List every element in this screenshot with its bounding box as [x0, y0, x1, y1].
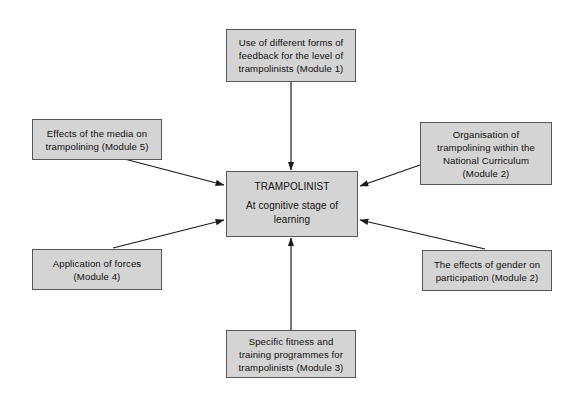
node-media-module-5[interactable]: Effects of the media on trampolining (Mo…	[32, 119, 162, 160]
node-forces-line-1: Application of forces	[53, 257, 142, 270]
center-subtitle-line-1: At cognitive stage of	[246, 199, 338, 213]
node-feedback-line-2: feedback for the level of	[239, 49, 343, 62]
node-fitness-line-3: trampolinists (Module 3)	[239, 361, 344, 374]
trampolinist-center[interactable]: TRAMPOLINIST At cognitive stage of learn…	[226, 171, 358, 237]
node-fitness-line-2: training programmes for	[239, 348, 343, 361]
arrow-organisation-to-center	[360, 165, 420, 186]
node-organisation-line-1: Organisation of	[453, 128, 520, 141]
node-organisation-module-2[interactable]: Organisation of trampolining within the …	[420, 122, 552, 185]
node-media-line-1: Effects of the media on	[47, 127, 147, 140]
node-feedback-line-1: Use of different forms of	[239, 36, 344, 49]
node-fitness-module-3[interactable]: Specific fitness and training programmes…	[226, 330, 356, 378]
node-gender-line-1: The effects of gender on	[434, 258, 540, 271]
node-forces-module-4[interactable]: Application of forces (Module 4)	[32, 249, 162, 290]
node-forces-line-2: (Module 4)	[74, 270, 121, 283]
node-fitness-line-1: Specific fitness and	[249, 335, 334, 348]
node-organisation-line-3: National Curriculum	[443, 154, 529, 167]
arrow-media-to-center	[113, 156, 224, 185]
arrow-forces-to-center	[113, 220, 224, 248]
arrow-gender-to-center	[360, 220, 485, 249]
node-media-line-2: trampolining (Module 5)	[45, 140, 148, 153]
node-organisation-line-2: trampolining within the	[437, 141, 535, 154]
diagram-canvas: Use of different forms of feedback for t…	[0, 0, 584, 398]
center-title: TRAMPOLINIST	[254, 180, 329, 194]
node-organisation-line-4: (Module 2)	[463, 167, 510, 180]
node-feedback-line-3: trampolinists (Module 1)	[239, 62, 344, 75]
node-feedback-module-1[interactable]: Use of different forms of feedback for t…	[226, 29, 356, 82]
center-subtitle-line-2: learning	[246, 213, 338, 227]
node-gender-module-2[interactable]: The effects of gender on participation (…	[422, 250, 552, 291]
center-subtitle: At cognitive stage of learning	[246, 199, 338, 227]
node-gender-line-2: participation (Module 2)	[436, 271, 539, 284]
